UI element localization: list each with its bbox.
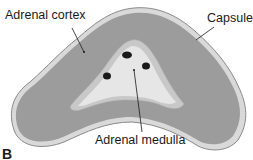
vessel-2 bbox=[142, 63, 150, 70]
label-adrenal-cortex: Adrenal cortex bbox=[5, 9, 86, 22]
vessel-3 bbox=[103, 73, 111, 80]
vessel-1 bbox=[122, 52, 132, 59]
cortex-leader-dot bbox=[83, 51, 85, 53]
label-capsule: Capsule bbox=[207, 12, 253, 25]
label-adrenal-medulla: Adrenal medulla bbox=[95, 134, 185, 147]
medulla-leader-dot bbox=[133, 69, 135, 71]
capsule-leader-line bbox=[196, 27, 214, 40]
panel-letter: B bbox=[2, 147, 12, 160]
